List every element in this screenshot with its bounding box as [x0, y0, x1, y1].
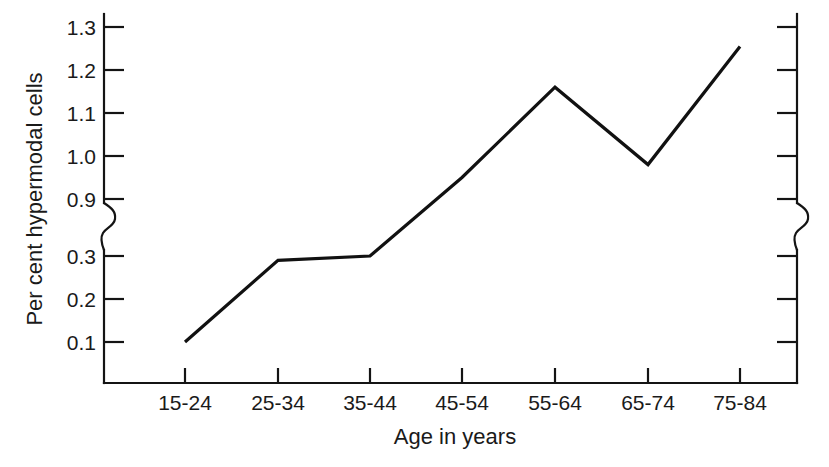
x-tick-label-25-34: 25-34 [251, 391, 305, 414]
x-tick-label-45-54: 45-54 [435, 391, 489, 414]
y-tick-label-0-2: 0.2 [67, 288, 96, 311]
y-tick-label-1-0: 1.0 [67, 145, 96, 168]
y-tick-label-1-3: 1.3 [67, 16, 96, 39]
line-chart: 1.3 1.2 1.1 1.0 0.9 0.3 0.2 0.1 15-24 25… [0, 0, 829, 467]
x-tick-label-55-64: 55-64 [528, 391, 582, 414]
x-tick-label-75-84: 75-84 [713, 391, 767, 414]
y-tick-label-0-3: 0.3 [67, 245, 96, 268]
x-axis-title: Age in years [394, 424, 516, 449]
chart-figure: 1.3 1.2 1.1 1.0 0.9 0.3 0.2 0.1 15-24 25… [0, 0, 829, 467]
y-tick-label-1-1: 1.1 [67, 102, 96, 125]
y-axis-break-left-icon [101, 203, 115, 250]
x-tick-label-15-24: 15-24 [158, 391, 212, 414]
y-tick-label-0-9: 0.9 [67, 188, 96, 211]
y-axis-break-right-icon [794, 203, 808, 250]
y-axis-title: Per cent hypermodal cells [22, 72, 47, 325]
data-series-line [185, 46, 740, 342]
y-tick-label-0-1: 0.1 [67, 331, 96, 354]
x-tick-label-65-74: 65-74 [621, 391, 675, 414]
y-tick-label-1-2: 1.2 [67, 59, 96, 82]
x-tick-label-35-44: 35-44 [343, 391, 397, 414]
